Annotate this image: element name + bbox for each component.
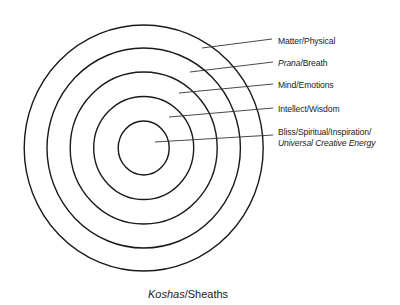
label-italic: Prana: [278, 58, 300, 68]
label-mind-emotions: Mind/Emotions: [278, 80, 334, 91]
leader-line-bliss: [155, 135, 273, 142]
label-text: Bliss/Spiritual/Inspiration/: [278, 127, 371, 137]
label-prana-breath: Prana/Breath: [278, 58, 327, 69]
diagram-caption: Koshas/Sheaths: [148, 287, 228, 301]
caption-text: /Sheaths: [185, 288, 228, 300]
ring-mind-emotions: [70, 72, 217, 224]
ring-matter-physical: [24, 25, 263, 271]
label-intellect-wisdom: Intellect/Wisdom: [278, 104, 339, 115]
leader-line-prana: [190, 62, 273, 72]
label-text: /Breath: [300, 58, 327, 68]
ring-prana-breath: [47, 48, 240, 248]
label-text: Intellect/Wisdom: [278, 104, 339, 114]
label-text: Matter/Physical: [278, 36, 335, 46]
caption-italic: Koshas: [148, 288, 185, 300]
ring-intellect-wisdom: [94, 97, 194, 200]
label-bliss-spiritual: Bliss/Spiritual/Inspiration/ Universal C…: [278, 127, 375, 149]
label-matter-physical: Matter/Physical: [278, 36, 335, 47]
koshas-diagram: [0, 0, 400, 305]
ring-bliss-spiritual: [118, 121, 169, 175]
label-text: Mind/Emotions: [278, 80, 334, 90]
leader-line-mind: [179, 84, 273, 93]
leader-line-matter: [202, 39, 272, 48]
label-text-line2: Universal Creative Energy: [278, 138, 375, 148]
